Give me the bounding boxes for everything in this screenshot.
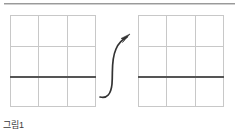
left-grid-emphasis-line <box>10 76 96 78</box>
left-grid-border <box>10 15 96 107</box>
arrow-shaft <box>100 37 127 97</box>
right-grid-vline-1 <box>166 15 167 107</box>
left-grid-figure <box>10 15 96 107</box>
curved-transition-arrow <box>94 26 138 102</box>
right-grid-border <box>138 15 224 107</box>
right-grid-emphasis-line <box>138 76 224 78</box>
left-grid-vline-1 <box>38 15 39 107</box>
page-canvas: 그림1 <box>0 0 239 130</box>
right-grid-hline-1 <box>138 46 224 47</box>
horizontal-divider-shadow <box>4 4 235 5</box>
left-grid-vline-2 <box>67 15 68 107</box>
left-grid-hline-1 <box>10 46 96 47</box>
figure-caption: 그림1 <box>3 120 24 130</box>
right-grid-figure <box>138 15 224 107</box>
right-grid-vline-2 <box>195 15 196 107</box>
